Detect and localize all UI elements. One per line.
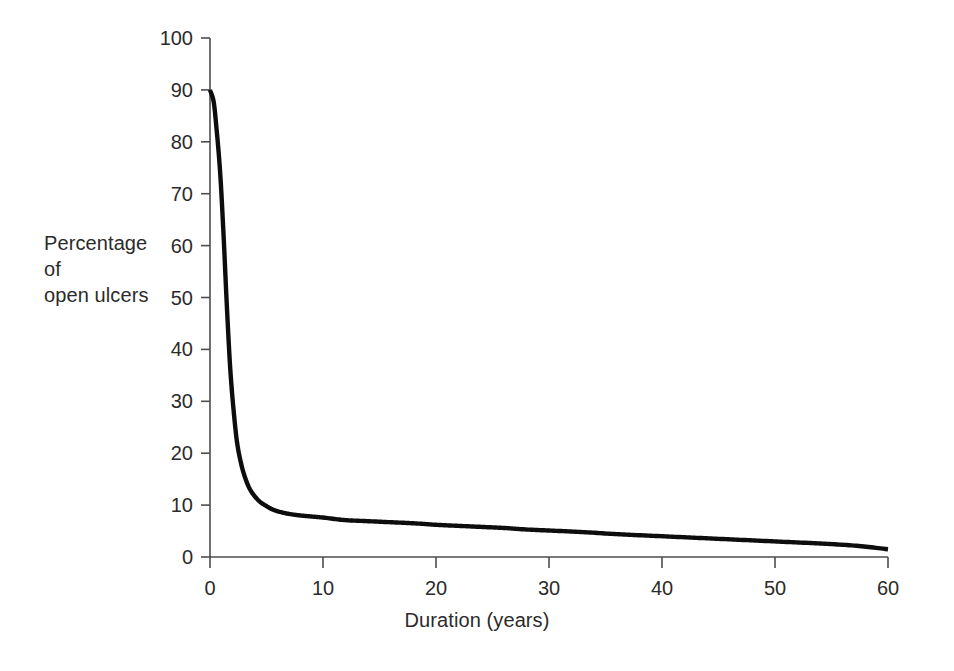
x-axis: 0102030405060 — [204, 557, 899, 599]
y-axis-tick-label: 40 — [171, 338, 193, 360]
chart-plot-area: 0102030405060708090100 0102030405060 — [0, 0, 954, 671]
y-axis-tick-label: 90 — [171, 79, 193, 101]
x-axis-tick-label: 40 — [651, 577, 673, 599]
x-axis-tick-label: 0 — [204, 577, 215, 599]
y-axis-tick-label: 100 — [160, 27, 193, 49]
data-series-group — [210, 90, 888, 549]
y-axis-tick-label: 20 — [171, 442, 193, 464]
y-axis-tick-label: 30 — [171, 390, 193, 412]
x-axis-tick-label: 20 — [425, 577, 447, 599]
chart-figure: Percentage of open ulcers Duration (year… — [0, 0, 954, 671]
y-axis-tick-label: 50 — [171, 287, 193, 309]
y-axis-tick-label: 10 — [171, 494, 193, 516]
y-axis-tick-label: 0 — [182, 546, 193, 568]
y-axis-tick-label: 80 — [171, 131, 193, 153]
y-axis-tick-label: 60 — [171, 235, 193, 257]
data-series-line — [210, 90, 888, 549]
x-axis-tick-label: 50 — [764, 577, 786, 599]
y-axis: 0102030405060708090100 — [160, 27, 210, 568]
y-axis-title: Percentage of open ulcers — [44, 230, 149, 308]
y-axis-tick-label: 70 — [171, 183, 193, 205]
x-axis-tick-label: 10 — [312, 577, 334, 599]
x-axis-tick-label: 30 — [538, 577, 560, 599]
x-axis-title: Duration (years) — [0, 609, 954, 632]
x-axis-tick-label: 60 — [877, 577, 899, 599]
